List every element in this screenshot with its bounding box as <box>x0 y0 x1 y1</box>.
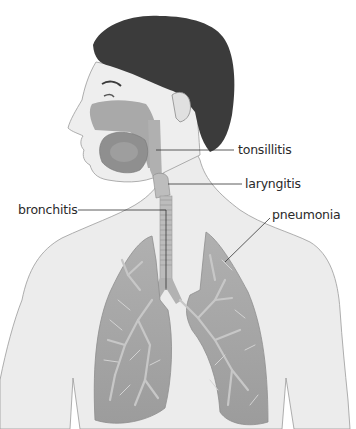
label-bronchitis: bronchitis <box>18 202 78 217</box>
label-tonsillitis: tonsillitis <box>238 142 292 157</box>
label-pneumonia: pneumonia <box>272 207 341 222</box>
respiratory-diagram: tonsillitis laryngitis bronchitis pneumo… <box>0 0 356 429</box>
label-laryngitis: laryngitis <box>245 176 301 191</box>
larynx <box>153 173 170 198</box>
